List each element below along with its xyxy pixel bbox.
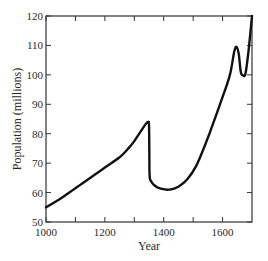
y-axis: 5060708090100110120 [27, 10, 253, 228]
y-axis-label: Population (millions) [10, 68, 24, 170]
x-axis: 1000120014001600 [35, 16, 234, 238]
x-tick-label: 1600 [212, 226, 235, 238]
x-tick-label: 1000 [35, 226, 58, 238]
population-chart: 5060708090100110120 1000120014001600 Yea… [0, 0, 268, 261]
x-tick-label: 1200 [94, 226, 117, 238]
population-line [46, 16, 252, 207]
y-tick-label: 100 [27, 69, 44, 81]
y-tick-label: 80 [32, 128, 44, 140]
y-tick-label: 110 [27, 39, 44, 51]
x-tick-label: 1400 [153, 226, 176, 238]
y-tick-label: 60 [32, 187, 44, 199]
plot-frame [46, 16, 252, 222]
x-axis-label: Year [138, 239, 160, 253]
y-tick-label: 70 [32, 157, 44, 169]
y-tick-label: 120 [27, 10, 44, 22]
y-tick-label: 90 [32, 98, 44, 110]
